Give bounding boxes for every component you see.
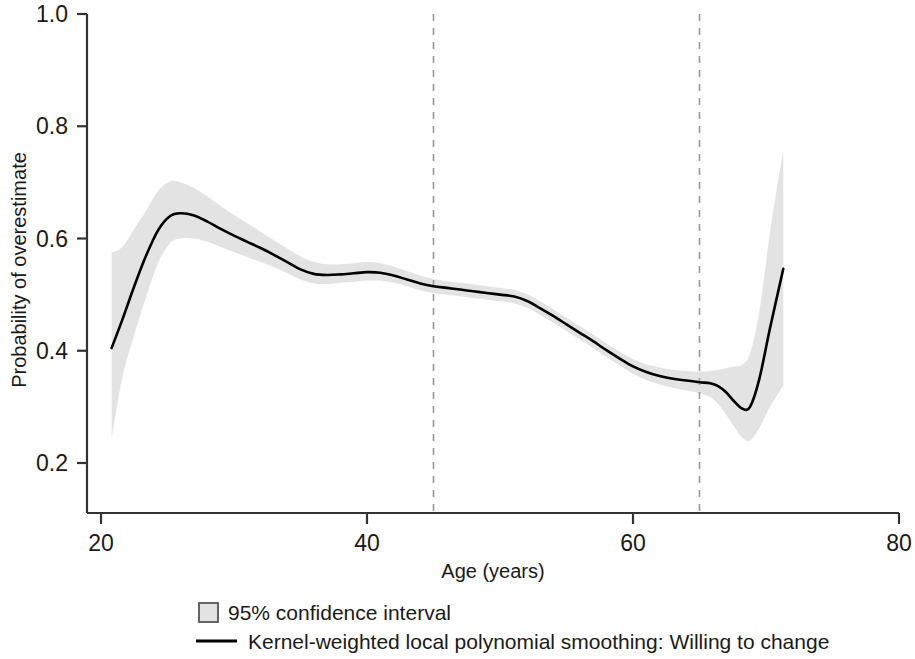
figure-canvas: 0.20.40.60.81.0 20406080 Probability of … bbox=[0, 0, 915, 659]
legend-swatch-icon bbox=[199, 603, 218, 622]
x-axis-tick-labels: 20406080 bbox=[88, 530, 912, 556]
y-axis-tick-labels: 0.20.40.60.81.0 bbox=[36, 1, 68, 476]
chart-root: 0.20.40.60.81.0 20406080 Probability of … bbox=[0, 0, 915, 659]
y-axis-title: Probability of overestimate bbox=[8, 152, 30, 388]
legend-entry-confidence-interval: 95% confidence interval bbox=[199, 601, 451, 624]
x-axis-title: Age (years) bbox=[441, 560, 544, 582]
legend-label-confidence-interval: 95% confidence interval bbox=[228, 601, 451, 624]
legend-entry-smoothing-line: Kernel-weighted local polynomial smoothi… bbox=[196, 630, 829, 653]
x-tick-label: 20 bbox=[88, 530, 114, 556]
legend-label-smoothing-line: Kernel-weighted local polynomial smoothi… bbox=[248, 630, 829, 653]
x-tick-label: 80 bbox=[886, 530, 912, 556]
y-axis-ticks bbox=[77, 14, 87, 463]
x-tick-label: 40 bbox=[354, 530, 380, 556]
x-axis-ticks bbox=[101, 513, 899, 524]
x-tick-label: 60 bbox=[620, 530, 646, 556]
reference-lines-group bbox=[434, 14, 700, 513]
y-tick-label: 0.8 bbox=[36, 113, 68, 139]
y-tick-label: 0.6 bbox=[36, 226, 68, 252]
legend: 95% confidence interval Kernel-weighted … bbox=[196, 601, 829, 653]
confidence-interval-band bbox=[112, 150, 784, 441]
y-tick-label: 1.0 bbox=[36, 1, 68, 27]
y-tick-label: 0.4 bbox=[36, 338, 68, 364]
y-tick-label: 0.2 bbox=[36, 450, 68, 476]
